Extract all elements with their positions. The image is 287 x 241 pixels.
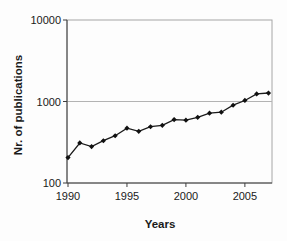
- data-point-diamond: [254, 91, 259, 96]
- x-tick-label: 2000: [174, 190, 198, 202]
- tick-labels: 1001000100001990199520002005: [30, 14, 257, 202]
- x-tick-label: 1990: [56, 190, 80, 202]
- data-point-diamond: [266, 90, 271, 95]
- tick-marks: [63, 20, 245, 187]
- x-tick-label: 2005: [233, 190, 257, 202]
- x-tick-label: 1995: [115, 190, 139, 202]
- y-axis-title: Nr. of publications: [12, 55, 24, 155]
- series-line: [68, 93, 269, 158]
- data-point-diamond: [89, 144, 94, 149]
- data-point-diamond: [160, 123, 165, 128]
- x-axis-title: Years: [145, 218, 176, 230]
- data-series-publications: [65, 90, 271, 160]
- data-point-diamond: [195, 115, 200, 120]
- data-point-diamond: [101, 138, 106, 143]
- data-point-diamond: [148, 124, 153, 129]
- y-tick-label: 10000: [30, 14, 61, 26]
- y-tick-label: 1000: [37, 96, 61, 108]
- publications-trend-figure: 1001000100001990199520002005 Years Nr. o…: [0, 0, 287, 241]
- data-point-diamond: [172, 117, 177, 122]
- y-tick-label: 100: [43, 177, 61, 189]
- line-chart-canvas: 1001000100001990199520002005 Years Nr. o…: [0, 0, 287, 241]
- data-point-diamond: [207, 111, 212, 116]
- data-point-diamond: [219, 110, 224, 115]
- data-point-diamond: [183, 118, 188, 123]
- data-point-diamond: [136, 129, 141, 134]
- data-point-diamond: [230, 103, 235, 108]
- data-point-diamond: [242, 98, 247, 103]
